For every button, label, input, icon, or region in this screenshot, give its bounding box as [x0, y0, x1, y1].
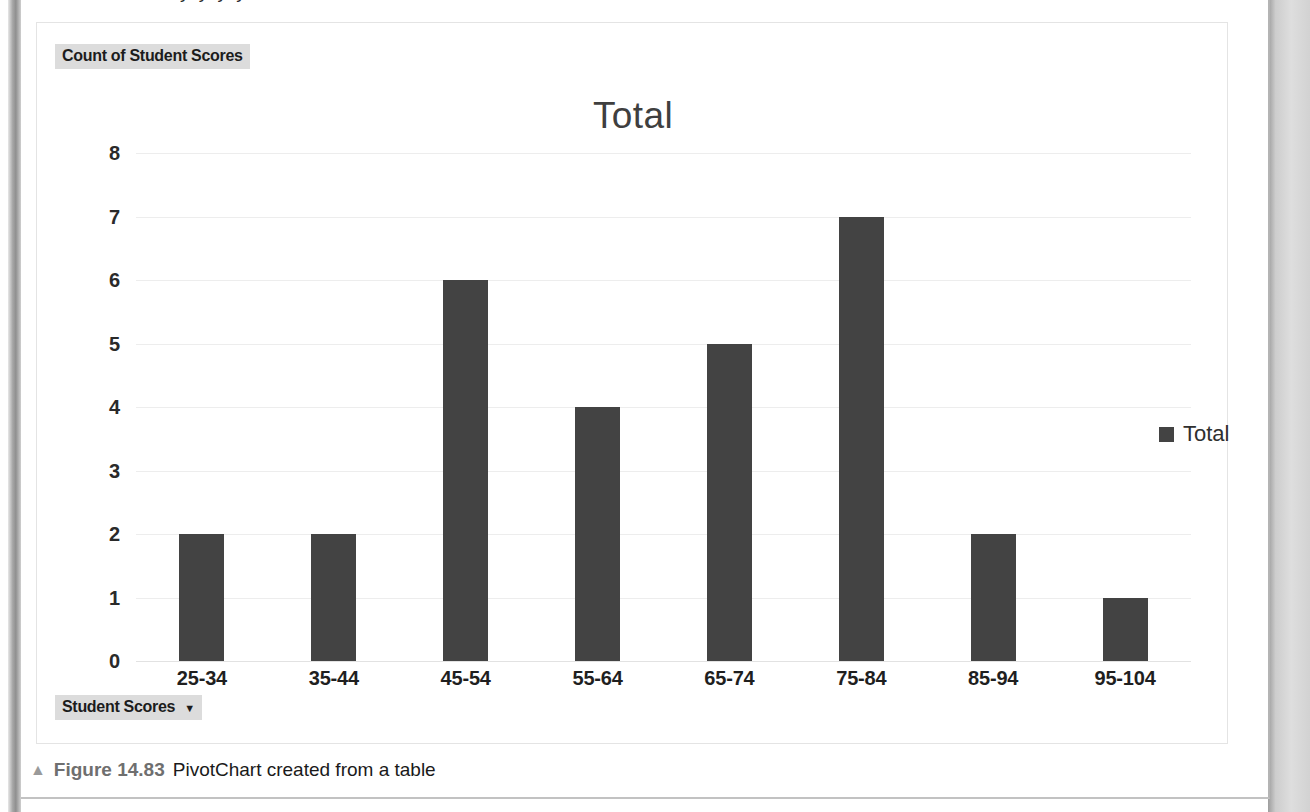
bar-75-84[interactable] [839, 217, 884, 662]
page-gutter-left [8, 0, 21, 812]
y-axis-tick-label: 0 [109, 651, 120, 671]
grid-area [136, 153, 1191, 661]
plot-area: 012345678 [86, 153, 1191, 661]
figure-caption-text: PivotChart created from a table [173, 759, 436, 781]
bar-series [136, 153, 1191, 661]
clipped-text-glyphs: y y y y [180, 0, 248, 2]
chevron-down-icon: ▼ [184, 703, 195, 714]
bar-85-94[interactable] [971, 534, 1016, 661]
pivot-axis-field-button[interactable]: Student Scores ▼ [55, 695, 202, 720]
figure-number: Figure 14.83 [54, 759, 165, 781]
y-axis-tick-label: 5 [109, 334, 120, 354]
clipped-text-above: y y y y [180, 0, 880, 10]
bar-95-104[interactable] [1103, 598, 1148, 662]
x-axis-tick-label: 85-94 [927, 667, 1059, 690]
scanned-page: y y y y Count of Student Scores Total 01… [0, 0, 1310, 812]
x-axis-tick-label: 55-64 [532, 667, 664, 690]
y-axis-tick-label: 1 [109, 588, 120, 608]
figure-caption: ▲ Figure 14.83 PivotChart created from a… [30, 759, 436, 781]
legend-label-total: Total [1183, 421, 1229, 447]
y-axis-tick-label: 7 [109, 207, 120, 227]
bar-slot [400, 153, 532, 661]
chart-title: Total [37, 95, 1229, 137]
y-axis: 012345678 [86, 153, 120, 661]
bar-slot [795, 153, 927, 661]
chart-legend[interactable]: Total [1159, 421, 1229, 447]
bar-35-44[interactable] [311, 534, 356, 661]
bar-slot [927, 153, 1059, 661]
bar-45-54[interactable] [443, 280, 488, 661]
y-axis-tick-label: 8 [109, 143, 120, 163]
x-axis: 25-3435-4445-5455-6465-7475-8485-9495-10… [136, 667, 1191, 690]
x-axis-tick-label: 35-44 [268, 667, 400, 690]
bar-slot [1059, 153, 1191, 661]
bar-slot [136, 153, 268, 661]
bar-65-74[interactable] [707, 344, 752, 662]
x-axis-tick-label: 45-54 [400, 667, 532, 690]
bar-55-64[interactable] [575, 407, 620, 661]
pivot-axis-field-label: Student Scores [62, 698, 175, 716]
y-axis-tick-label: 4 [109, 397, 120, 417]
x-axis-tick-label: 25-34 [136, 667, 268, 690]
bar-25-34[interactable] [179, 534, 224, 661]
x-axis-tick-label: 75-84 [795, 667, 927, 690]
y-axis-tick-label: 6 [109, 270, 120, 290]
legend-swatch-total [1159, 427, 1174, 442]
y-axis-tick-label: 3 [109, 461, 120, 481]
x-axis-tick-label: 95-104 [1059, 667, 1191, 690]
triangle-up-icon: ▲ [30, 761, 46, 779]
bar-slot [664, 153, 796, 661]
pivot-value-field-label: Count of Student Scores [62, 47, 243, 64]
pivot-value-field-button[interactable]: Count of Student Scores [55, 44, 250, 69]
y-axis-tick-label: 2 [109, 524, 120, 544]
bar-slot [268, 153, 400, 661]
axis-baseline [136, 661, 1191, 662]
page-gutter-right [1268, 0, 1310, 812]
bar-slot [532, 153, 664, 661]
pivotchart-object[interactable]: Count of Student Scores Total 012345678 … [36, 22, 1228, 744]
x-axis-tick-label: 65-74 [664, 667, 796, 690]
